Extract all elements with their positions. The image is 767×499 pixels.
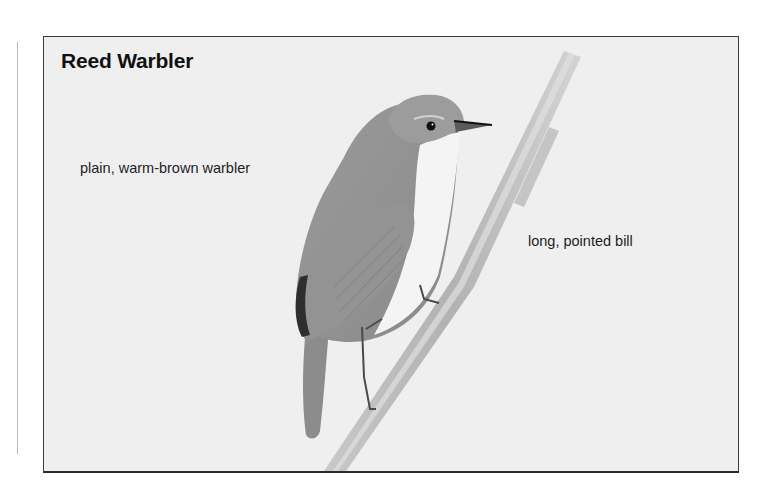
eye-icon [427,122,436,131]
species-plate: Reed Warbler plain, warm-brown warbler l… [43,36,739,473]
species-title: Reed Warbler [61,49,193,73]
tail-icon [303,327,329,438]
annotation-plumage: plain, warm-brown warbler [80,160,250,176]
annotation-bill: long, pointed bill [528,233,633,249]
reed-warbler-illustration [44,37,739,473]
margin-rule [17,42,18,454]
